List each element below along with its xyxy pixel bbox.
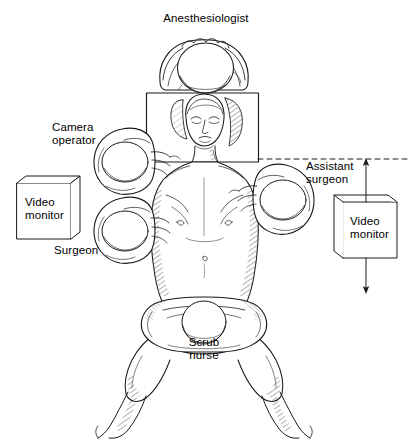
label-camera-operator-line2: operator xyxy=(52,134,122,148)
label-video-monitor-left-line1: Video xyxy=(25,196,75,210)
label-assistant-surgeon-line2: surgeon xyxy=(306,173,382,187)
label-assistant-surgeon-line1: Assistant xyxy=(306,160,382,174)
label-surgeon: Surgeon xyxy=(54,244,124,258)
surgical-room-diagram: Anesthesiologist Camera operator Assista… xyxy=(0,0,408,439)
label-scrub-nurse-line1: Scrub xyxy=(166,336,242,350)
label-video-monitor-right-line1: Video xyxy=(350,215,400,229)
label-anesthesiologist: Anesthesiologist xyxy=(144,12,268,26)
anesthesiologist-figure xyxy=(160,39,249,93)
arrow-down-to-monitor xyxy=(363,258,369,294)
label-video-monitor-right-line2: monitor xyxy=(350,228,400,242)
label-scrub-nurse-line2: nurse xyxy=(166,349,242,363)
label-video-monitor-left-line2: monitor xyxy=(25,209,75,223)
label-camera-operator-line1: Camera xyxy=(52,121,122,135)
